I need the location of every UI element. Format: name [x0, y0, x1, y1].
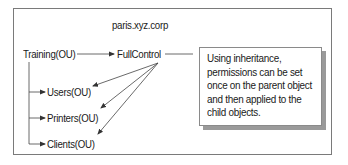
- child-ou-printers-label: Printers(OU): [47, 112, 98, 124]
- callout-line: once on the parent object: [207, 79, 312, 93]
- callout-line: permissions can be set: [207, 66, 312, 80]
- explanation-callout: Using inheritance, permissions can be se…: [199, 47, 322, 126]
- domain-label: paris.xyz.corp: [112, 19, 168, 31]
- inherit-printers-arrow: [101, 63, 158, 108]
- callout-text: Using inheritance, permissions can be se…: [207, 52, 312, 120]
- parent-ou-label: Training(OU): [23, 48, 75, 60]
- child-ou-clients-label: Clients(OU): [47, 138, 95, 150]
- callout-line: Using inheritance,: [207, 52, 312, 66]
- child-ou-users-label: Users(OU): [47, 86, 91, 98]
- permission-label: FullControl: [117, 48, 161, 60]
- callout-line: child objects.: [207, 106, 312, 120]
- callout-line: and then applied to the: [207, 93, 312, 107]
